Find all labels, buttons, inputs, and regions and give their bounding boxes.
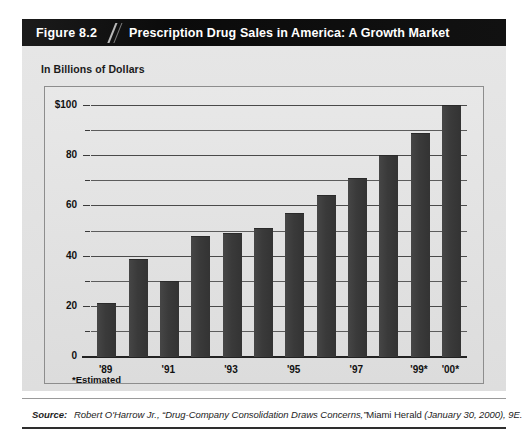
y-minor-tick-50: [85, 231, 90, 232]
figure-root: Figure 8.2 Prescription Drug Sales in Am…: [0, 0, 528, 442]
bar-98: [379, 155, 398, 357]
y-minor-tick-10: [85, 331, 90, 332]
plot-frame: 020406080$100: [44, 86, 484, 384]
bar-90: [129, 259, 148, 357]
figure-number: Figure 8.2: [36, 26, 97, 40]
figure-title-bar: Figure 8.2 Prescription Drug Sales in Am…: [22, 19, 506, 46]
y-axis-title: In Billions of Dollars: [41, 63, 145, 75]
bar-93: [223, 233, 242, 357]
x-axis-label-89: '89: [86, 364, 126, 375]
x-axis-label-95: '95: [274, 364, 314, 375]
plot-area: 020406080$100: [45, 87, 485, 385]
source-line: Source:Robert O'Harrow Jr., “Drug-Compan…: [32, 409, 522, 420]
y-tick-60: [83, 205, 90, 206]
bar-00: [442, 105, 461, 357]
y-minor-tick-30: [85, 281, 90, 282]
source-author: Robert O'Harrow Jr.,: [74, 409, 159, 420]
source-label: Source:: [32, 409, 67, 420]
bottom-rule: [22, 427, 506, 429]
bar-96: [317, 195, 336, 357]
y-tick-40: [83, 256, 90, 257]
y-tick-100: [83, 105, 90, 106]
figure-title: Prescription Drug Sales in America: A Gr…: [129, 26, 449, 40]
y-axis-label-100: $100: [45, 99, 77, 110]
source-article: “Drug-Company Consolidation Draws Concer…: [162, 409, 366, 420]
x-axis-label-97: '97: [336, 364, 376, 375]
y-axis-label-80: 80: [45, 149, 77, 160]
bar-97: [348, 178, 367, 357]
source-divider: [22, 398, 506, 399]
bar-92: [191, 236, 210, 357]
y-tick-20: [83, 306, 90, 307]
source-publication: Miami Herald: [366, 409, 421, 420]
gridline-100: [91, 105, 467, 106]
bar-99: [411, 133, 430, 357]
y-axis-label-60: 60: [45, 199, 77, 210]
bar-94: [254, 228, 273, 357]
bar-89: [97, 303, 116, 357]
source-date: (January 30, 2000), 9E.: [424, 409, 522, 420]
y-tick-80: [83, 155, 90, 156]
y-axis-label-0: 0: [45, 350, 77, 361]
title-slash-decoration: [101, 23, 127, 43]
gridline-90: [91, 130, 467, 131]
y-minor-tick-90: [85, 130, 90, 131]
bar-95: [285, 213, 304, 357]
x-axis-label-93: '93: [211, 364, 251, 375]
y-minor-tick-70: [85, 180, 90, 181]
estimated-footnote: *Estimated: [72, 374, 121, 385]
x-axis-label-91: '91: [148, 364, 188, 375]
x-axis-label-00: '00*: [430, 364, 470, 375]
y-axis-label-20: 20: [45, 300, 77, 311]
y-axis-label-40: 40: [45, 250, 77, 261]
bar-91: [160, 281, 179, 357]
